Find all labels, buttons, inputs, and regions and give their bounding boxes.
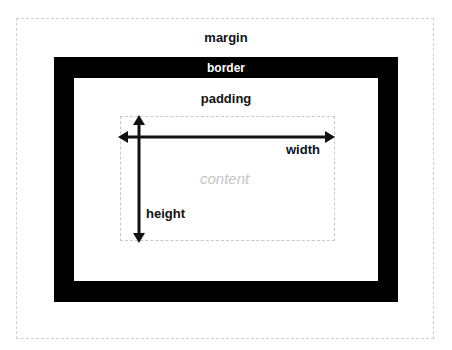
height-arrow-icon (133, 115, 145, 243)
dimension-arrows (0, 0, 452, 350)
width-arrow-icon (118, 131, 335, 143)
